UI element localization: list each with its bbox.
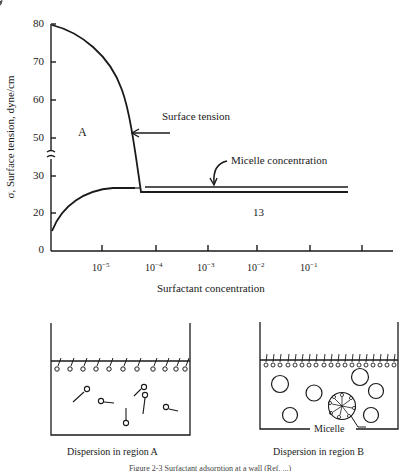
- y-tick-label: 60: [22, 94, 44, 105]
- monomer-concentration-curve: [52, 188, 135, 231]
- container-right-left-part: [260, 322, 310, 429]
- container-left: [51, 323, 190, 435]
- x-axis-title: Surfactant concentration: [157, 283, 265, 294]
- y-tick-label: 30: [22, 170, 44, 181]
- surface-tension-label: Surface tension: [162, 111, 230, 122]
- region-a-label: A: [78, 126, 87, 138]
- axis-break-mark: [47, 156, 55, 158]
- y-tick-label: 50: [22, 132, 44, 143]
- x-tick-label: 10−3: [197, 262, 214, 273]
- dispersed-surfactants-left: [73, 384, 178, 425]
- adsorbed-surfactants-right: [0, 0, 396, 367]
- surface-tension-curve: [52, 25, 348, 192]
- figure-caption: Figure 2-3 Surfactant adsorption at a wa…: [0, 463, 420, 471]
- x-tick-label: 10−2: [247, 262, 264, 273]
- panel-region-b: [0, 0, 398, 429]
- caption-region-a: Dispersion in region A: [67, 446, 158, 457]
- y-axis-title: σ, Surface tension, dyne/cm: [4, 76, 16, 199]
- x-ticks: [102, 245, 362, 251]
- micelle-concentration-label: Micelle concentration: [231, 155, 327, 166]
- y-ticks: [51, 24, 56, 213]
- droplets-right: [272, 369, 384, 423]
- axis-break-mark: [47, 151, 55, 153]
- y-tick-label: 0: [22, 244, 44, 255]
- container-right-right-part: [356, 322, 398, 429]
- y-tick-label: 20: [22, 207, 44, 218]
- micelle: [328, 393, 366, 428]
- x-tick-label: 10−1: [300, 262, 317, 273]
- micelle-label: Micelle: [314, 424, 345, 434]
- plateau-number-label: 13: [253, 207, 264, 218]
- y-tick-label: 80: [22, 18, 44, 29]
- chart-canvas: [0, 0, 420, 471]
- y-tick-label: 70: [22, 56, 44, 67]
- caption-region-b: Dispersion in region B: [273, 446, 364, 457]
- x-tick-label: 10−5: [92, 262, 109, 273]
- x-tick-label: 10−4: [145, 262, 162, 273]
